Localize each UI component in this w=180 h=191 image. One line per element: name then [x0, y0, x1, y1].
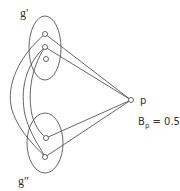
curved-edge: [23, 47, 45, 157]
node-p-label: p: [140, 95, 146, 106]
edge: [45, 100, 131, 157]
node: [44, 136, 49, 141]
node: [43, 155, 48, 160]
node-p: [129, 98, 134, 103]
diagram-canvas: g′ g″ p Bp = 0.5: [0, 0, 180, 191]
node: [43, 32, 48, 37]
group-g-prime-label: g′: [20, 6, 29, 20]
edge: [46, 100, 131, 138]
node: [43, 45, 48, 50]
edge: [45, 47, 131, 100]
node: [44, 57, 49, 62]
bp-annotation: Bp = 0.5: [138, 116, 180, 130]
bp-value: = 0.5: [149, 116, 180, 127]
group-g-double-prime-label: g″: [18, 174, 29, 188]
